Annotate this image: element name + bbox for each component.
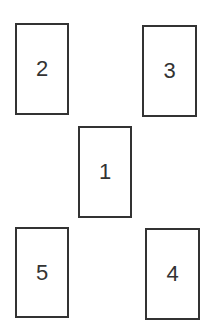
box-4-label: 4	[166, 263, 178, 285]
box-5-label: 5	[36, 262, 48, 284]
box-4: 4	[145, 228, 200, 320]
box-2: 2	[15, 23, 69, 115]
box-1-label: 1	[99, 161, 111, 183]
box-2-label: 2	[36, 58, 48, 80]
box-1: 1	[78, 126, 132, 218]
box-3-label: 3	[163, 60, 175, 82]
box-5: 5	[15, 227, 69, 318]
box-3: 3	[142, 25, 197, 117]
